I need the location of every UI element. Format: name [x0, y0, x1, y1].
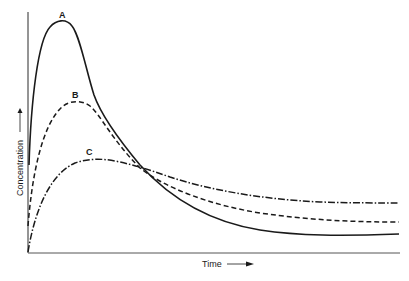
y-axis-label-group: Concentration — [15, 108, 25, 196]
curve-b-label: B — [72, 90, 79, 100]
curve-b — [28, 102, 399, 226]
curve-a-label: A — [59, 10, 66, 20]
arrow-up-icon — [18, 108, 23, 113]
curve-c — [28, 159, 399, 252]
y-axis-label: Concentration — [15, 140, 25, 196]
x-axis-label-group: Time — [202, 259, 254, 269]
curve-c-label: C — [86, 147, 93, 157]
concentration-time-chart: A B C Concentration Time — [0, 0, 409, 281]
arrow-right-icon — [246, 262, 254, 267]
x-axis-label: Time — [202, 259, 222, 269]
